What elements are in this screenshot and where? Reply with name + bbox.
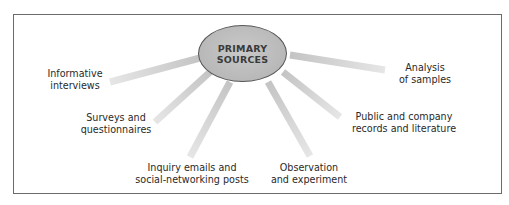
spoke-inquiry-emails [190, 82, 230, 157]
node-label-line2: questionnaires [76, 124, 156, 136]
node-label-line2: and experiment [264, 174, 354, 186]
node-analysis-samples: Analysis of samples [390, 62, 460, 85]
node-label-line1: Public and company [344, 111, 464, 123]
node-label-line1: Analysis [390, 62, 460, 74]
node-informative-interviews: Informative interviews [40, 68, 110, 91]
node-inquiry-emails: Inquiry emails and social-networking pos… [132, 162, 252, 185]
spoke-observation-experiment [268, 82, 310, 156]
node-label-line2: interviews [40, 80, 110, 92]
node-label-line2: of samples [390, 74, 460, 86]
node-label-line1: Informative [40, 68, 110, 80]
node-label-line2: records and literature [344, 123, 464, 135]
spoke-analysis-samples [290, 55, 385, 70]
node-surveys-questionnaires: Surveys and questionnaires [76, 112, 156, 135]
node-label-line2: social-networking posts [132, 174, 252, 186]
node-label-line1: Observation [264, 162, 354, 174]
primary-sources-hub: PRIMARY SOURCES [198, 25, 287, 82]
node-public-company-records: Public and company records and literatur… [344, 111, 464, 134]
spoke-informative-interviews [110, 58, 200, 82]
node-observation-experiment: Observation and experiment [264, 162, 354, 185]
hub-title-line1: PRIMARY [218, 43, 268, 54]
hub-title-line2: SOURCES [217, 54, 269, 65]
node-label-line1: Inquiry emails and [132, 162, 252, 174]
node-label-line1: Surveys and [76, 112, 156, 124]
spoke-public-company-records [283, 72, 340, 117]
spoke-surveys-questionnaires [155, 72, 210, 122]
